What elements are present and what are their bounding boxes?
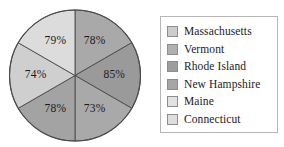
pie-slice-label: 73% <box>84 102 106 114</box>
pie-chart: 78%85%73%78%74%79% <box>0 0 150 147</box>
legend: Massachusetts Vermont Rhode Island New H… <box>160 16 278 133</box>
legend-item-list: Massachusetts Vermont Rhode Island New H… <box>167 23 275 128</box>
legend-swatch-icon <box>167 79 178 90</box>
legend-swatch-icon <box>167 96 178 107</box>
legend-swatch-icon <box>167 44 178 55</box>
pie-chart-figure: 78%85%73%78%74%79% Massachusetts Vermont… <box>0 0 284 147</box>
legend-item-rhode-island[interactable]: Rhode Island <box>167 58 275 76</box>
legend-item-label: New Hampshire <box>184 79 260 91</box>
pie-slice-label: 79% <box>45 34 67 46</box>
pie-slice-label: 85% <box>103 68 125 80</box>
legend-item-label: Vermont <box>184 44 224 56</box>
legend-item-maine[interactable]: Maine <box>167 93 275 111</box>
legend-swatch-icon <box>167 61 178 72</box>
legend-item-massachusetts[interactable]: Massachusetts <box>167 23 275 41</box>
legend-swatch-icon <box>167 114 178 125</box>
legend-item-vermont[interactable]: Vermont <box>167 41 275 59</box>
pie-chart-svg: 78%85%73%78%74%79% <box>0 0 150 147</box>
pie-slice-label: 78% <box>84 34 106 46</box>
legend-item-label: Maine <box>184 96 214 108</box>
legend-swatch-icon <box>167 26 178 37</box>
legend-item-label: Massachusetts <box>184 26 252 38</box>
legend-item-label: Connecticut <box>184 114 241 126</box>
legend-item-label: Rhode Island <box>184 61 246 73</box>
pie-slice-label: 78% <box>45 102 67 114</box>
pie-slice-label: 74% <box>25 68 47 80</box>
legend-item-new-hampshire[interactable]: New Hampshire <box>167 76 275 94</box>
legend-item-connecticut[interactable]: Connecticut <box>167 111 275 129</box>
